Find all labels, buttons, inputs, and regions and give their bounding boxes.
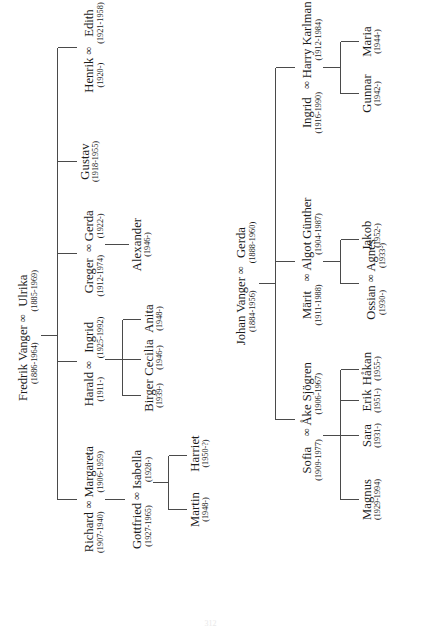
- person-isabella: Isabella (1928-): [130, 449, 153, 488]
- person-edith: Edith (1921-1958): [82, 2, 105, 43]
- person-dates: (1951-): [373, 388, 381, 413]
- marriage-symbol: ∞: [300, 425, 311, 439]
- node-gottfried-isabella[interactable]: Gottfried (1927-1965) ∞ Isabella (1928-): [126, 449, 153, 548]
- person-henrik: Henrik (1920-): [82, 57, 105, 92]
- person-gottfried: Gottfried (1927-1965): [130, 502, 153, 548]
- node-fredrik-ulrika[interactable]: Fredrik Vanger (1886-1964) ∞ Ulrika (188…: [12, 270, 39, 401]
- node-alexander[interactable]: Alexander (1946-): [130, 217, 152, 270]
- marriage-symbol: ∞: [82, 497, 93, 511]
- person-name: Harry Karlman: [300, 1, 313, 78]
- person-name: Ingrid: [300, 97, 313, 128]
- person-name: Åke Sjögren: [300, 362, 313, 425]
- person-marit: Märit (1911-1988): [300, 284, 323, 325]
- person-dates: (1918-1955): [91, 141, 99, 182]
- person-name: Sara: [360, 423, 373, 448]
- person-sofia: Sofia (1909-1977): [300, 439, 323, 480]
- person-dates: (1904-1987): [314, 213, 323, 254]
- person-name: Erik: [360, 388, 373, 413]
- node-jakob[interactable]: Jakob (1952-): [360, 220, 382, 250]
- person-harald: Harald (1911-): [82, 372, 105, 406]
- node-erik[interactable]: Erik (1951-): [360, 388, 382, 413]
- person-johan: Johan Vanger (1884-1956): [234, 277, 257, 345]
- node-richard-margareta[interactable]: Richard (1907-1940) ∞ Margareta (1906-19…: [78, 446, 105, 553]
- marriage-symbol: ∞: [82, 43, 93, 57]
- person-name: Håkan: [360, 351, 373, 384]
- person-dates: (1942-): [373, 74, 381, 112]
- node-sofia-ake[interactable]: Sofia (1909-1977) ∞ Åke Sjögren (1906-19…: [296, 362, 323, 481]
- page-folio: 312: [0, 619, 421, 628]
- person-name: Gottfried: [130, 502, 143, 548]
- person-name: Algot Günther: [300, 197, 313, 270]
- marriage-symbol: ∞: [82, 358, 93, 372]
- node-johan-gerda[interactable]: Johan Vanger (1884-1956) ∞ Gerda (1888-1…: [230, 221, 257, 344]
- node-sara[interactable]: Sara (1931-): [360, 423, 382, 448]
- person-dates: (1955-): [373, 351, 381, 384]
- person-ossian: Ossian (1930-): [364, 285, 387, 319]
- person-name: Magnus: [360, 478, 373, 519]
- node-marit-algot[interactable]: Märit (1911-1988) ∞ Algot Günther (1904-…: [296, 197, 323, 325]
- person-name: Gerda: [82, 210, 95, 241]
- node-ossian-agnes[interactable]: Ossian (1930-) ∞ Agnes (1933-): [360, 239, 387, 319]
- node-harriet[interactable]: Harriet (1950-?): [188, 435, 210, 471]
- node-cecilia[interactable]: Cecilia (1946-): [142, 339, 164, 375]
- node-ingrid-harry[interactable]: Ingrid (1916-1990) ∞ Harry Karlman (1912…: [296, 1, 323, 133]
- person-dates: (1944-): [373, 26, 381, 57]
- node-henrik-edith[interactable]: Henrik (1920-) ∞ Edith (1921-1958): [78, 2, 105, 92]
- marriage-symbol: ∞: [300, 78, 311, 92]
- person-dates: (1884-1956): [248, 290, 257, 331]
- person-name: Alexander: [130, 217, 143, 270]
- person-ake-sjogren: Åke Sjögren (1906-1967): [300, 362, 323, 425]
- person-margareta: Margareta (1906-1959): [82, 446, 105, 498]
- person-dates: (1948-): [155, 304, 163, 332]
- node-maria[interactable]: Maria (1944-): [360, 26, 382, 57]
- node-hakan[interactable]: Håkan (1955-): [360, 351, 382, 384]
- person-dates: (1939-): [155, 379, 163, 412]
- node-greger-gerda[interactable]: Greger (1912-1974) ∞ Gerda (1922-): [78, 210, 105, 296]
- marriage-symbol: ∞: [364, 271, 375, 285]
- marriage-symbol: ∞: [82, 241, 93, 255]
- person-dates: (1886-1964): [30, 342, 39, 383]
- person-name: Isabella: [130, 449, 143, 488]
- person-dates: (1906-1959): [96, 451, 105, 492]
- person-dates: (1946-): [155, 339, 163, 375]
- person-dates: (1888-1960): [248, 221, 257, 262]
- person-name: Martin: [188, 492, 201, 527]
- person-name: Fredrik Vanger: [16, 325, 29, 401]
- person-dates: (1929-1994): [373, 478, 381, 519]
- person-name: Margareta: [82, 446, 95, 498]
- person-ulrika: Ulrika (1885-1969): [16, 270, 39, 311]
- person-dates: (1912-1974): [96, 255, 105, 296]
- person-dates: (1906-1967): [314, 373, 323, 414]
- person-dates: (1928-): [144, 457, 153, 482]
- person-dates: (1931-): [373, 423, 381, 448]
- person-name: Johan Vanger: [234, 277, 247, 345]
- person-name: Anita: [142, 304, 155, 332]
- person-name: Greger: [82, 258, 95, 293]
- person-name: Maria: [360, 26, 373, 57]
- person-name: Richard: [82, 512, 95, 552]
- person-name: Gerda: [234, 227, 247, 258]
- person-dates: (1907-1940): [96, 511, 105, 552]
- person-dates: (1950-?): [201, 435, 209, 471]
- node-gunnar[interactable]: Gunnar (1942-): [360, 74, 382, 112]
- person-dates: (1927-1965): [144, 505, 153, 546]
- node-anita[interactable]: Anita (1948-): [142, 304, 164, 332]
- person-name: Ulrika: [16, 274, 29, 306]
- node-birger[interactable]: Birger (1939-): [142, 379, 164, 412]
- rotated-chart-canvas: Fredrik Vanger (1886-1964) ∞ Ulrika (188…: [0, 0, 421, 631]
- node-harald-ingrid[interactable]: Harald (1911-) ∞ Ingrid (1925-1992): [78, 316, 105, 406]
- node-gustav[interactable]: Gustav (1918-1955): [78, 141, 100, 182]
- person-fredrik: Fredrik Vanger (1886-1964): [16, 325, 39, 401]
- person-dates: (1930-): [378, 290, 387, 315]
- person-name: Harald: [82, 372, 95, 406]
- node-magnus[interactable]: Magnus (1929-1994): [360, 478, 382, 519]
- person-dates: (1952-): [373, 220, 381, 250]
- node-martin[interactable]: Martin (1948-): [188, 492, 210, 527]
- marriage-symbol: ∞: [130, 489, 141, 503]
- marriage-symbol: ∞: [234, 263, 245, 277]
- person-dates: (1911-): [96, 376, 105, 401]
- person-name: Ingrid: [82, 322, 95, 353]
- marriage-symbol: ∞: [300, 270, 311, 284]
- person-name: Harriet: [188, 435, 201, 471]
- marriage-symbol: ∞: [16, 311, 27, 325]
